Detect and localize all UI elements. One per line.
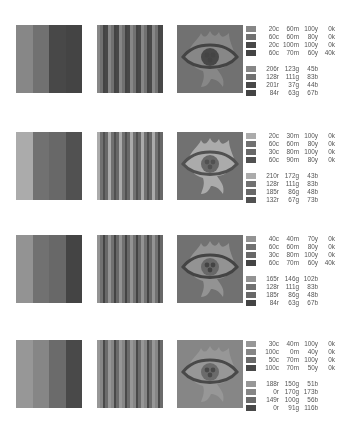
legend-value-m: 90m: [280, 156, 299, 164]
color-swatch: [246, 82, 256, 88]
color-legend: 20c30m100y0k60c60m80y0k30c80m100y0k60c90…: [246, 132, 355, 204]
color-swatch: [246, 284, 256, 290]
legend-value-c: 30c: [258, 251, 279, 259]
color-swatch: [246, 34, 256, 40]
legend-value-g: 111g: [280, 73, 299, 81]
legend-value-g: 150g: [280, 380, 299, 388]
legend-value-k: 0k: [318, 340, 335, 348]
legend-value-b: 83b: [299, 283, 318, 291]
legend-row: 50c70m100y0k: [246, 356, 355, 364]
legend-value-r: 210r: [258, 172, 279, 180]
eye-icon: [177, 340, 243, 408]
legend-row: 185r86g48b: [246, 188, 355, 196]
color-bands-panel: [16, 25, 82, 93]
color-swatch: [246, 252, 256, 258]
color-stripe: [160, 132, 163, 200]
legend-row: 84r63g67b: [246, 89, 355, 97]
legend-value-b: 67b: [299, 89, 318, 97]
color-band: [33, 25, 50, 93]
color-swatch: [246, 341, 256, 347]
legend-value-r: 188r: [258, 380, 279, 388]
legend-value-k: 0k: [318, 235, 335, 243]
legend-value-k: 40k: [318, 259, 335, 267]
legend-value-y: 80y: [299, 140, 318, 148]
legend-value-b: 116b: [299, 404, 318, 412]
legend-row: 60c90m80y0k: [246, 156, 355, 164]
legend-value-m: 60m: [280, 243, 299, 251]
legend-row: 30c80m100y0k: [246, 251, 355, 259]
legend-value-k: 0k: [318, 348, 335, 356]
legend-row: 60c60m80y0k: [246, 33, 355, 41]
legend-value-b: 73b: [299, 196, 318, 204]
color-band: [49, 25, 66, 93]
legend-value-m: 70m: [280, 356, 299, 364]
legend-row: 60c70m60y40k: [246, 49, 355, 57]
legend-row: 20c100m100y0k: [246, 41, 355, 49]
legend-value-m: 60m: [280, 33, 299, 41]
color-swatch: [246, 260, 256, 266]
legend-value-g: 111g: [280, 180, 299, 188]
legend-value-y: 100y: [299, 356, 318, 364]
color-swatch: [246, 244, 256, 250]
legend-row: 100c0m40y0k: [246, 348, 355, 356]
legend-value-m: 30m: [280, 132, 299, 140]
color-swatch: [246, 173, 256, 179]
legend-row: 60c60m80y0k: [246, 243, 355, 251]
legend-row: 60c70m60y40k: [246, 259, 355, 267]
legend-value-b: 83b: [299, 180, 318, 188]
color-swatch: [246, 389, 256, 395]
legend-value-m: 0m: [280, 348, 299, 356]
legend-value-g: 111g: [280, 283, 299, 291]
legend-value-y: 60y: [299, 259, 318, 267]
legend-value-r: 128r: [258, 283, 279, 291]
legend-value-k: 0k: [318, 132, 335, 140]
legend-value-g: 91g: [280, 404, 299, 412]
legend-value-g: 63g: [280, 89, 299, 97]
legend-value-b: 102b: [299, 275, 318, 283]
legend-row: 30c40m100y0k: [246, 340, 355, 348]
legend-value-k: 0k: [318, 156, 335, 164]
legend-value-r: 132r: [258, 196, 279, 204]
legend-value-c: 100c: [258, 364, 279, 372]
legend-value-r: 128r: [258, 180, 279, 188]
color-swatch: [246, 292, 256, 298]
color-swatch: [246, 42, 256, 48]
color-band: [49, 235, 66, 303]
color-stripe: [160, 25, 163, 93]
legend-row: 60c60m80y0k: [246, 140, 355, 148]
legend-row: 20c60m100y0k: [246, 25, 355, 33]
color-swatch: [246, 50, 256, 56]
legend-row: 20c30m100y0k: [246, 132, 355, 140]
legend-value-y: 70y: [299, 235, 318, 243]
color-band: [33, 340, 50, 408]
eye-motif-illustration: [177, 25, 243, 93]
color-band: [16, 25, 33, 93]
color-band: [49, 132, 66, 200]
legend-value-b: 173b: [299, 388, 318, 396]
color-swatch: [246, 181, 256, 187]
legend-value-r: 149r: [258, 396, 279, 404]
color-band: [66, 235, 83, 303]
legend-value-b: 56b: [299, 396, 318, 404]
legend-row: 165r146g102b: [246, 275, 355, 283]
legend-value-c: 20c: [258, 41, 279, 49]
legend-value-y: 80y: [299, 156, 318, 164]
eye-icon: [177, 235, 243, 303]
palette-set: 20c30m100y0k60c60m80y0k30c80m100y0k60c90…: [0, 132, 355, 202]
legend-value-m: 70m: [280, 49, 299, 57]
legend-value-y: 60y: [299, 49, 318, 57]
legend-value-c: 30c: [258, 340, 279, 348]
legend-value-g: 146g: [280, 275, 299, 283]
legend-row: 149r100g56b: [246, 396, 355, 404]
color-bands-panel: [16, 132, 82, 200]
legend-value-r: 165r: [258, 275, 279, 283]
color-swatch: [246, 397, 256, 403]
color-band: [33, 132, 50, 200]
legend-row: 0r91g116b: [246, 404, 355, 412]
legend-value-g: 172g: [280, 172, 299, 180]
color-swatch: [246, 133, 256, 139]
legend-row: 210r172g43b: [246, 172, 355, 180]
legend-value-y: 80y: [299, 33, 318, 41]
legend-value-r: 128r: [258, 73, 279, 81]
color-band: [16, 235, 33, 303]
